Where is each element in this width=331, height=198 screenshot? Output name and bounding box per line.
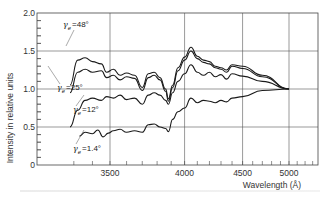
series-label: γe=12°: [73, 105, 99, 116]
x-axis-title: Wavelength (Å): [243, 180, 301, 190]
y-axis-title: Intensity in relative units: [5, 73, 15, 164]
y-tick-label: 1.5: [23, 46, 35, 56]
series-line-3: [80, 89, 290, 137]
series-label: γe=1.4°: [73, 144, 101, 155]
line-chart: 00.51.01.52.0 3500400045005000 γe=48°γe=…: [0, 0, 331, 198]
y-tick-label: 2.0: [23, 8, 35, 18]
x-axis: 3500400045005000: [74, 161, 313, 178]
y-tick-label: 0: [30, 160, 35, 170]
data-series: [70, 47, 289, 137]
caption-faint: [20, 190, 320, 192]
x-tick-label: 4500: [233, 168, 252, 178]
series-labels: γe=48°γe=25°γe=12°γe=1.4°: [48, 20, 101, 155]
series-label: γe=25°: [57, 83, 83, 94]
x-tick-label: 5000: [280, 168, 299, 178]
y-tick-label: 1.0: [23, 84, 35, 94]
x-tick-label: 3500: [101, 168, 120, 178]
x-tick-label: 4000: [175, 168, 194, 178]
series-line-1: [70, 51, 289, 101]
y-tick-label: 0.5: [23, 122, 35, 132]
series-label: γe=48°: [63, 20, 89, 31]
